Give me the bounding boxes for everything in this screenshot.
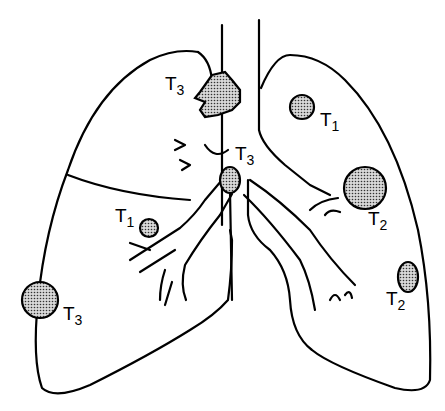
label-t3-chest-wall: T3 bbox=[63, 303, 83, 328]
tumor-t1-left-upper bbox=[290, 95, 314, 119]
tumor-t3-apex bbox=[195, 72, 240, 117]
tumor-t2-left-hilar bbox=[344, 167, 386, 209]
tumor-t2-left-lower bbox=[398, 262, 418, 292]
label-t1-left-upper: T1 bbox=[320, 109, 340, 134]
lung-tumor-diagram: T3 T3 T1 T3 T1 T2 T2 bbox=[0, 0, 445, 411]
label-t3-hilum: T3 bbox=[235, 143, 255, 168]
tumors bbox=[22, 72, 418, 318]
tumor-t3-hilum bbox=[220, 167, 240, 193]
label-t1-right-middle: T1 bbox=[115, 205, 135, 230]
tumor-t3-chest-wall bbox=[22, 282, 58, 318]
left-lung bbox=[248, 55, 430, 390]
label-t2-left-lower: T2 bbox=[386, 288, 406, 313]
trachea bbox=[222, 20, 330, 225]
label-t3-apex: T3 bbox=[165, 73, 185, 98]
bronchial-tree bbox=[130, 140, 355, 310]
tumor-t1-right-middle bbox=[140, 219, 158, 237]
label-t2-left-hilar: T2 bbox=[368, 208, 388, 233]
